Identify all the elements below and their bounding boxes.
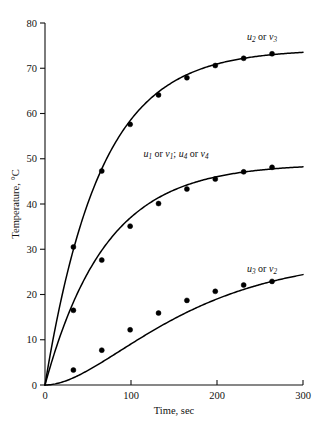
data-marker — [213, 177, 218, 182]
x-tick-label: 200 — [209, 390, 225, 401]
data-marker — [184, 75, 189, 80]
data-marker — [241, 169, 246, 174]
data-marker — [99, 348, 104, 353]
data-marker — [128, 224, 133, 229]
y-tick-label: 80 — [27, 18, 38, 29]
y-tick-label: 0 — [32, 380, 37, 391]
data-marker — [128, 122, 133, 127]
curve-labels: u2 or v3u1 or v1; u4 or v4u3 or v2 — [143, 31, 277, 276]
data-marker — [71, 308, 76, 313]
data-marker — [213, 63, 218, 68]
data-marker — [71, 244, 76, 249]
data-marker — [156, 201, 161, 206]
y-tick-label: 20 — [27, 289, 38, 300]
data-marker — [128, 327, 133, 332]
data-marker — [270, 165, 275, 170]
y-axis-ticks — [40, 23, 45, 385]
curve-label: u2 or v3 — [247, 31, 277, 44]
y-tick-label: 60 — [27, 108, 38, 119]
x-axis-ticks — [131, 380, 303, 385]
y-tick-label: 40 — [27, 199, 38, 210]
data-curve — [45, 275, 303, 385]
x-tick-label: 100 — [123, 390, 139, 401]
chart-figure: 01020304050607080 0100200300 Temperature… — [0, 0, 329, 426]
y-axis-title: Temperature, °C — [10, 169, 21, 238]
data-marker — [71, 368, 76, 373]
data-marker — [270, 279, 275, 284]
data-curves — [45, 52, 303, 385]
data-marker — [184, 298, 189, 303]
curve-label: u3 or v2 — [247, 263, 277, 276]
data-marker — [99, 168, 104, 173]
chart-plot-area: 01020304050607080 0100200300 Temperature… — [0, 0, 329, 426]
data-marker — [184, 187, 189, 192]
data-marker — [270, 51, 275, 56]
data-markers — [71, 51, 275, 372]
y-axis-tick-labels: 01020304050607080 — [27, 18, 38, 391]
axis-frame — [45, 23, 303, 385]
x-tick-label: 300 — [295, 390, 311, 401]
x-axis-title: Time, sec — [154, 405, 195, 416]
data-curve — [45, 167, 303, 385]
data-marker — [241, 283, 246, 288]
data-marker — [99, 258, 104, 263]
x-tick-label: 0 — [42, 390, 47, 401]
y-tick-label: 50 — [27, 153, 38, 164]
data-curve — [45, 52, 303, 385]
y-tick-label: 30 — [27, 244, 38, 255]
curve-label: u1 or v1; u4 or v4 — [143, 148, 209, 161]
y-tick-label: 70 — [27, 63, 38, 74]
x-axis-tick-labels: 0100200300 — [42, 390, 311, 401]
data-marker — [156, 92, 161, 97]
data-marker — [213, 289, 218, 294]
data-marker — [241, 56, 246, 61]
data-marker — [156, 311, 161, 316]
axis-group — [40, 23, 303, 385]
y-tick-label: 10 — [27, 334, 38, 345]
